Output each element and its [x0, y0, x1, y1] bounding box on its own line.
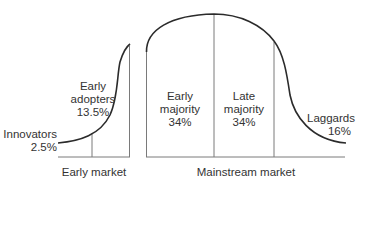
early-adopters-name-line1: Early [68, 80, 118, 93]
laggards-label: Laggards 16% [295, 112, 355, 138]
early-market-text: Early market [53, 166, 135, 179]
late-majority-name-line1: Late [219, 90, 269, 103]
innovators-name: Innovators [0, 128, 57, 141]
early-majority-label: Early majority 34% [155, 90, 205, 129]
mainstream-market-label: Mainstream market [190, 166, 302, 179]
early-majority-name-line1: Early [155, 90, 205, 103]
early-adopters-percent: 13.5% [68, 106, 118, 119]
laggards-percent: 16% [295, 125, 355, 138]
early-adopters-name-line2: adopters [68, 93, 118, 106]
early-market-label: Early market [53, 166, 135, 179]
innovators-label: Innovators 2.5% [0, 128, 57, 154]
mainstream-market-text: Mainstream market [190, 166, 302, 179]
innovators-percent: 2.5% [0, 141, 57, 154]
early-majority-name-line2: majority [155, 103, 205, 116]
early-majority-percent: 34% [155, 116, 205, 129]
laggards-name: Laggards [295, 112, 355, 125]
late-majority-name-line2: majority [219, 103, 269, 116]
late-majority-label: Late majority 34% [219, 90, 269, 129]
early-adopters-label: Early adopters 13.5% [68, 80, 118, 119]
late-majority-percent: 34% [219, 116, 269, 129]
